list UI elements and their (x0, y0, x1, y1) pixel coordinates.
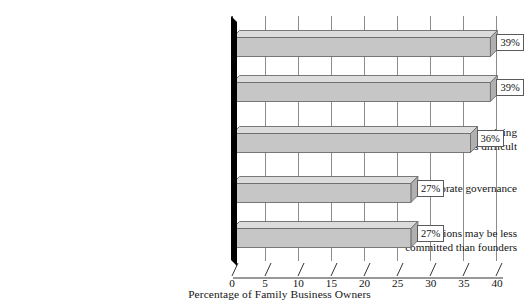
bar-shape (232, 126, 479, 153)
x-axis-title: Percentage of Family Business Owners (0, 288, 517, 300)
bar (232, 176, 418, 202)
value-label: 39% (496, 34, 523, 51)
bar (232, 126, 478, 152)
value-label: 39% (496, 79, 523, 96)
value-label: 36% (477, 130, 504, 147)
x-axis-title-text: Percentage of Family Business Owners (146, 288, 371, 300)
x-axis: 0510152025303540 (0, 261, 517, 308)
axis-wall (231, 16, 237, 266)
bar-shape (232, 30, 498, 57)
bar-shape (232, 221, 419, 248)
bar (232, 30, 497, 56)
value-label: 27% (417, 225, 444, 242)
bar-shape (232, 75, 498, 102)
bar-shape (232, 176, 419, 203)
bar (232, 221, 418, 247)
bar (232, 75, 497, 101)
value-label: 27% (417, 180, 444, 197)
